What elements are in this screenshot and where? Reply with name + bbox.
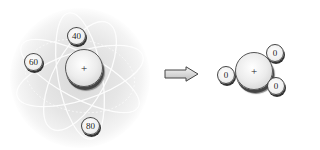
nucleus-label: + xyxy=(81,62,87,74)
nucleus-label: + xyxy=(251,65,257,77)
electron-zero-top-right: 0 xyxy=(266,44,284,62)
electron-zero-bottom-right: 0 xyxy=(267,77,285,95)
electron-40: 40 xyxy=(67,27,86,45)
right-arrow-icon xyxy=(164,66,200,82)
left-nucleus: + xyxy=(65,49,103,87)
electron-80: 80 xyxy=(81,117,100,135)
electron-60: 60 xyxy=(24,53,43,71)
electron-zero-left: 0 xyxy=(217,66,235,84)
